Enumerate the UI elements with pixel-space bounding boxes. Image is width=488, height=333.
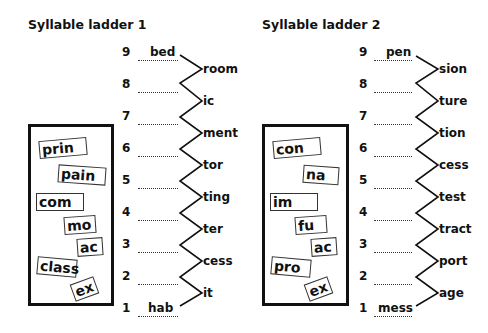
syllable-tile-box: con na im fu ac pro ex (262, 124, 349, 306)
syllable-tile[interactable]: ex (304, 276, 334, 301)
suffix: port (439, 254, 468, 268)
suffix: age (439, 286, 464, 300)
ladder-zigzag-lines (0, 0, 488, 333)
suffix: tion (439, 126, 466, 140)
suffix: ture (439, 94, 467, 108)
syllable-tile[interactable]: con (272, 137, 321, 159)
syllable-tile[interactable]: ac (310, 237, 337, 257)
syllable-tile[interactable]: fu (294, 215, 327, 235)
suffix: sion (439, 62, 467, 76)
syllable-tile[interactable]: pro (270, 256, 311, 277)
syllable-tile[interactable]: im (270, 193, 318, 211)
suffix: tract (439, 222, 472, 236)
syllable-tile[interactable]: na (302, 165, 339, 185)
suffix: cess (439, 158, 469, 172)
suffix: test (439, 190, 466, 204)
